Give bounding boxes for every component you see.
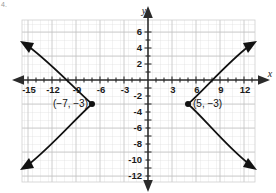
graph-svg: y x -15 -12 -9 -6 -3 3 6 9 12 6 4 2 -2 -…	[0, 0, 276, 193]
y-tick-label-6: 6	[137, 26, 142, 37]
y-tick-label-minus6: -6	[134, 122, 142, 133]
left-vertex-label: (−7, −3)	[53, 98, 88, 109]
y-tick-label-4: 4	[137, 42, 143, 53]
x-tick-label-9: 9	[218, 84, 223, 95]
x-tick-label-minus3: -3	[121, 84, 129, 95]
y-tick-label-minus2: -2	[134, 90, 142, 101]
right-vertex-label: (5, −3)	[193, 98, 222, 109]
y-tick-label-2: 2	[137, 58, 142, 69]
y-axis-bottom-arrowhead	[143, 180, 153, 192]
x-tick-label-minus12: -12	[46, 84, 60, 95]
y-tick-label-minus10: -10	[128, 154, 142, 165]
y-axis-name: y	[141, 5, 147, 16]
x-tick-label-minus15: -15	[22, 84, 36, 95]
right-vertex-point	[185, 101, 191, 107]
y-tick-label-minus12: -12	[128, 170, 142, 181]
left-vertex-point	[89, 101, 95, 107]
x-axis-name: x	[267, 68, 273, 79]
y-tick-label-minus4: -4	[134, 106, 143, 117]
x-tick-label-12: 12	[240, 84, 251, 95]
coordinate-graph: y x -15 -12 -9 -6 -3 3 6 9 12 6 4 2 -2 -…	[0, 0, 276, 193]
x-tick-label-minus6: -6	[97, 84, 105, 95]
x-tick-label-3: 3	[170, 84, 175, 95]
screenshot-root: 4.	[0, 0, 276, 193]
y-tick-label-minus8: -8	[134, 138, 142, 149]
